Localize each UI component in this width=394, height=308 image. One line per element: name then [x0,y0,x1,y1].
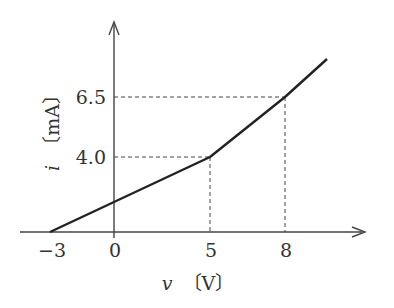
x-tick-label: 0 [109,239,121,261]
x-tick-label: 5 [205,239,217,261]
iv-chart: −3 0 5 8 6.5 4.0 v 〔V〕 i 〔mA〕 [0,0,394,308]
y-tick-label: 6.5 [76,86,106,108]
x-axis-unit: 〔V〕 [183,272,235,294]
x-tick-label: 8 [280,239,292,261]
x-tick-label: −3 [38,239,66,261]
x-axis-variable: v [162,272,173,294]
y-axis-variable: i [41,165,63,171]
y-tick-label: 4.0 [76,146,106,168]
y-axis-unit: 〔mA〕 [41,85,63,155]
x-axis-label: v 〔V〕 [162,272,235,294]
y-axis-label: i 〔mA〕 [41,85,63,171]
